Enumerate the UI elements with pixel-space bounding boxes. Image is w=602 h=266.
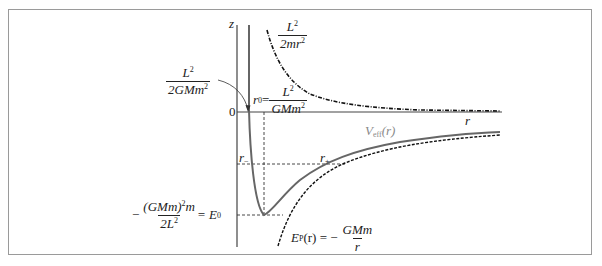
effective-potential-curve bbox=[249, 25, 500, 215]
ep-den: r bbox=[353, 238, 362, 254]
centrifugal-num: L bbox=[287, 19, 294, 34]
ep-label: EP(r) = − GMm r bbox=[291, 223, 374, 253]
r0-fraction: L2 GMm2 bbox=[269, 85, 307, 115]
centrifugal-den: 2mr bbox=[280, 36, 301, 51]
e0-num-tail: m bbox=[186, 199, 195, 214]
e0-minus: − bbox=[132, 207, 139, 223]
zero-crossing-label: L2 2GMm2 bbox=[166, 66, 210, 96]
e0-label: − (GMm)2m 2L2 = E0 bbox=[132, 200, 221, 230]
veff-sub: eff bbox=[373, 130, 382, 139]
r0-den-sup: 2 bbox=[301, 101, 305, 110]
r-plus-label: r+ bbox=[320, 151, 330, 166]
e0-equals: = E bbox=[197, 207, 217, 223]
zero-crossing-den-sup: 2 bbox=[204, 82, 208, 91]
zero-crossing-den: 2GMm bbox=[168, 82, 204, 97]
r0-num: L bbox=[283, 84, 290, 99]
r0-label: r0 = L2 GMm2 bbox=[253, 85, 307, 115]
r-plus-sub: + bbox=[325, 157, 330, 166]
zero-crossing-num: L bbox=[182, 65, 189, 80]
ep-num: GMm bbox=[341, 223, 375, 238]
ep-symbol: E bbox=[291, 230, 299, 246]
veff-symbol: V bbox=[365, 123, 373, 138]
r-axis-label: r bbox=[465, 114, 470, 127]
e0-sub: 0 bbox=[217, 211, 221, 220]
e0-den: 2L bbox=[160, 216, 174, 231]
r-minus-sub: − bbox=[244, 157, 249, 166]
veff-arg: (r) bbox=[382, 123, 396, 138]
ep-fraction: GMm r bbox=[341, 223, 375, 253]
veff-label: Veff(r) bbox=[365, 124, 395, 139]
origin-label: 0 bbox=[229, 105, 236, 118]
centrifugal-den-sup: 2 bbox=[301, 36, 305, 45]
r-minus-label: r− bbox=[239, 151, 249, 166]
ep-equals: (r) = − bbox=[303, 230, 337, 246]
e0-fraction: (GMm)2m 2L2 bbox=[141, 200, 197, 230]
r0-num-sup: 2 bbox=[290, 84, 294, 93]
e0-num: (GMm) bbox=[143, 199, 181, 214]
zero-crossing-num-sup: 2 bbox=[190, 65, 194, 74]
e0-den-sup: 2 bbox=[174, 216, 178, 225]
centrifugal-label: L2 2mr2 bbox=[278, 20, 307, 50]
z-axis-label: z bbox=[229, 17, 234, 30]
r0-equals: = bbox=[262, 92, 269, 108]
r0-den: GMm bbox=[271, 101, 301, 116]
centrifugal-num-sup: 2 bbox=[294, 19, 298, 28]
